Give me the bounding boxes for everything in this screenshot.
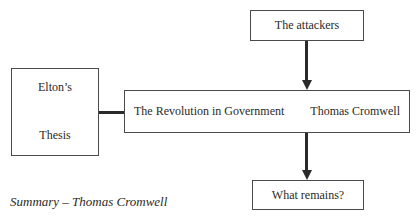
node-the-attackers-label: The attackers <box>251 18 363 33</box>
arrow-revolution-remains-shaft <box>305 133 308 171</box>
node-eltons-thesis-line1: Elton’s <box>12 80 98 95</box>
node-what-remains: What remains? <box>252 180 364 210</box>
arrow-down-icon <box>302 80 312 90</box>
node-eltons-thesis-line2: Thesis <box>12 128 98 143</box>
node-eltons-thesis: Elton’s Thesis <box>11 68 99 156</box>
node-revolution-in-government: The Revolution in Government Thomas Crom… <box>124 90 410 133</box>
arrow-down-icon <box>302 170 312 180</box>
node-what-remains-label: What remains? <box>253 188 363 203</box>
node-revolution-subtitle: Thomas Cromwell <box>310 104 400 119</box>
node-the-attackers: The attackers <box>250 10 364 41</box>
node-revolution-title: The Revolution in Government <box>134 104 284 119</box>
connector-thesis-revolution <box>99 111 124 114</box>
arrow-attackers-revolution-shaft <box>305 41 308 81</box>
diagram-caption: Summary – Thomas Cromwell <box>10 194 167 210</box>
